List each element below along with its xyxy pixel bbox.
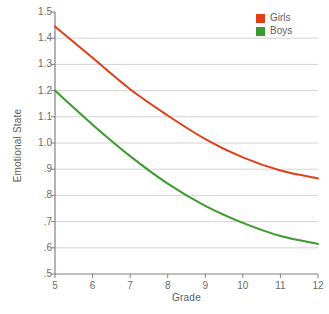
x-axis-tick-labels: 56789101112	[0, 0, 329, 314]
x-axis-title: Grade	[55, 292, 318, 303]
chart-legend: GirlsBoys	[256, 13, 292, 36]
x-tick-label: 11	[265, 280, 295, 291]
x-tick-label: 5	[40, 280, 70, 291]
legend-label: Boys	[270, 26, 292, 36]
x-tick-label: 7	[115, 280, 145, 291]
emotional-state-line-chart: 1.51.41.31.21.11.0.9.8.7.6.5 56789101112…	[0, 0, 329, 314]
x-tick-label: 9	[190, 280, 220, 291]
legend-item-boys[interactable]: Boys	[256, 26, 292, 36]
x-tick-label: 8	[153, 280, 183, 291]
x-tick-label: 12	[303, 280, 329, 291]
x-tick-label: 6	[78, 280, 108, 291]
legend-swatch-icon	[256, 27, 265, 36]
x-tick-label: 10	[228, 280, 258, 291]
y-axis-title: Emotional State	[12, 86, 23, 206]
legend-item-girls[interactable]: Girls	[256, 13, 292, 23]
legend-swatch-icon	[256, 14, 265, 23]
legend-label: Girls	[270, 13, 291, 23]
